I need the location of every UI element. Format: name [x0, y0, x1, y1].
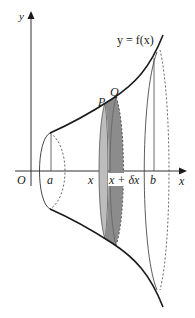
point-q-label: Q	[110, 85, 119, 99]
curve-label: y = f(x)	[117, 33, 154, 47]
point-p-label: P	[97, 95, 106, 109]
marker-x-label: x	[87, 173, 94, 187]
marker-a-label: a	[47, 173, 53, 187]
marker-x-plus-dx-label: x + δx	[108, 173, 140, 187]
end-cap-b-back	[160, 50, 169, 290]
y-axis-label: y	[18, 10, 24, 22]
origin-label: O	[17, 173, 26, 187]
x-axis-label: x	[178, 174, 185, 188]
y-axis-arrow	[28, 11, 35, 19]
marker-b-label: b	[150, 173, 156, 187]
disc-x	[99, 103, 108, 239]
solid-of-revolution-diagram: y y = f(x) P Q O a x x + δx b x	[0, 0, 195, 318]
